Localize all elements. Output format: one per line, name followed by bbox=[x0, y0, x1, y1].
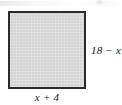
right-side-label: 18 − x bbox=[91, 44, 121, 57]
scan-artifact bbox=[0, 1, 122, 6]
scan-artifact-dot bbox=[96, 0, 103, 4]
shaded-square-shape bbox=[8, 11, 86, 89]
geometry-figure: 18 − x x + 4 bbox=[0, 0, 122, 105]
bottom-side-label: x + 4 bbox=[8, 91, 86, 104]
